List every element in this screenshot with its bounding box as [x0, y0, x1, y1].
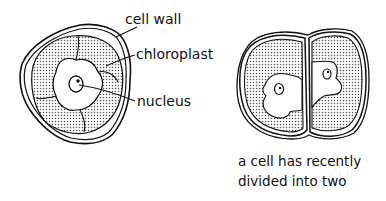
nucleus-left-daughter	[275, 84, 284, 95]
nucleus-right-daughter	[323, 69, 331, 79]
label-nucleus: nucleus	[137, 93, 191, 109]
caption-line-1: a cell has recently	[238, 153, 361, 169]
plant-cell-diagram: cell wall chloroplast nucleus a cell has…	[0, 0, 386, 201]
label-cell-wall: cell wall	[125, 11, 181, 27]
left-cell: cell wall chloroplast nucleus	[20, 11, 214, 144]
nucleolus	[76, 79, 80, 83]
right-cell: a cell has recently divided into two	[237, 29, 369, 189]
nucleus	[69, 76, 83, 92]
cell-wall-leader	[116, 27, 137, 37]
daughter-vacuole-left	[263, 73, 302, 118]
label-chloroplast: chloroplast	[136, 46, 214, 62]
caption-line-2: divided into two	[238, 173, 347, 189]
